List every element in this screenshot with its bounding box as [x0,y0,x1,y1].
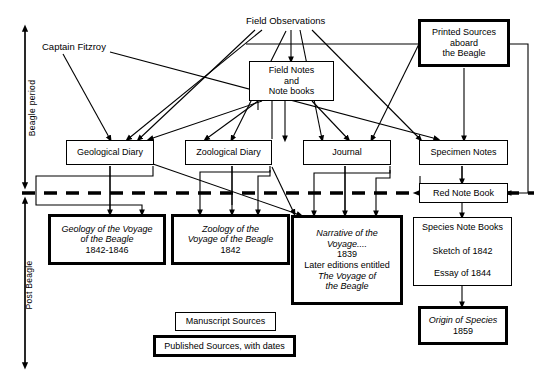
node-line: Field Notes [269,65,315,76]
node-line: 1859 [453,326,473,337]
legend-label: Manuscript Sources [186,316,266,327]
node-line: Geological Diary [77,147,143,158]
node-line: 1842-1846 [85,245,128,256]
legend-manuscript-sources: Manuscript Sources [175,312,276,331]
label-field-observations: Field Observations [246,15,325,26]
node-line: of the Beagle [80,234,133,245]
node-line: the Beagle [325,281,368,292]
node-line: 1842 [220,245,240,256]
node-line: Essay of 1844 [434,268,491,279]
node-line: and [284,76,299,87]
node-red-note-book[interactable]: Red Note Book [419,183,508,203]
node-journal[interactable]: Journal [303,140,391,165]
node-line: Voyage.... [327,239,367,250]
node-line: The Voyage of [318,271,376,282]
diagram-canvas: Beagle period Post Beagle Captain Fitzro… [0,0,540,380]
axis-label-post-beagle: Post Beagle [24,239,34,331]
node-line: the Beagle [442,48,485,59]
node-narrative-of-the-voyage[interactable]: Narrative of the Voyage.... 1839 Later e… [291,215,403,305]
node-species-note-books[interactable]: Species Note Books Sketch of 1842 Essay … [413,217,512,286]
node-line: Later editions entitled [304,260,390,271]
axis-label-beagle-period: Beagle period [27,62,37,154]
node-line: Journal [332,147,362,158]
node-geological-diary[interactable]: Geological Diary [66,140,154,165]
node-line: Zoology of the [202,224,259,235]
node-line: Red Note Book [433,188,494,199]
node-line: Specimen Notes [430,147,496,158]
node-field-notes[interactable]: Field Notes and Note books [249,61,334,101]
node-line: Zoological Diary [196,147,261,158]
node-origin-of-species[interactable]: Origin of Species 1859 [418,306,508,345]
node-line: Printed Sources [432,27,496,38]
label-captain-fitzroy: Captain Fitzroy [42,41,106,52]
node-line: Origin of Species [429,315,498,326]
node-line: Voyage of the Beagle [188,234,274,245]
node-line: Species Note Books [422,222,503,233]
node-line: 1839 [337,249,357,260]
node-line: aboard [450,38,478,49]
node-line: Note books [269,86,315,97]
node-printed-sources[interactable]: Printed Sources aboard the Beagle [418,19,510,67]
node-line: Sketch of 1842 [432,246,492,257]
legend-published-sources: Published Sources, with dates [153,335,296,357]
node-zoological-diary[interactable]: Zoological Diary [185,140,272,165]
node-zoology-of-the-voyage[interactable]: Zoology of the Voyage of the Beagle 1842 [171,214,290,265]
node-geology-of-the-voyage[interactable]: Geology of the Voyage of the Beagle 1842… [48,214,166,265]
legend-label: Published Sources, with dates [164,341,285,352]
node-specimen-notes[interactable]: Specimen Notes [419,140,508,165]
node-line: Geology of the Voyage [61,224,152,235]
node-line: Narrative of the [316,228,378,239]
